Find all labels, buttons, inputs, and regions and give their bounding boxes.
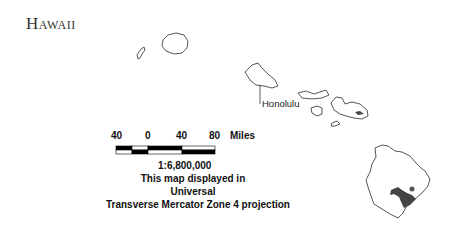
island-hawaii: [366, 145, 430, 218]
island-kahoolawe: [331, 121, 340, 126]
scale-tick-0: 0: [145, 130, 151, 141]
projection-note-line2: Transverse Mercator Zone 4 projection: [106, 198, 268, 211]
island-kauai: [162, 33, 188, 54]
scale-tick-40-left: 40: [111, 130, 122, 141]
island-oahu: [245, 63, 278, 88]
island-molokai: [298, 90, 329, 99]
scale-ratio: 1:6,800,000: [158, 160, 211, 171]
projection-note-line1: This map displayed in Universal: [118, 172, 268, 198]
label-honolulu: Honolulu: [262, 98, 300, 109]
scale-unit: Miles: [230, 130, 255, 141]
scale-bar: [116, 146, 215, 154]
scale-tick-80: 80: [209, 130, 220, 141]
mauna-kea-relief: [410, 187, 415, 192]
island-niihau: [137, 47, 145, 59]
island-maui: [331, 97, 368, 119]
projection-note: This map displayed in Universal Transver…: [118, 172, 268, 211]
island-lanai: [311, 106, 322, 116]
scale-tick-40: 40: [176, 130, 187, 141]
